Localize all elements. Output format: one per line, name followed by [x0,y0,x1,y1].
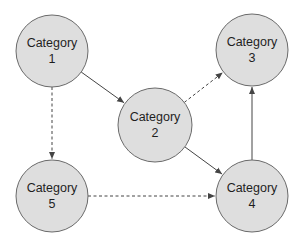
category-flow-diagram: Category 1 Category 2 Category 3 Categor… [0,0,307,244]
edge-2-to-4-arrow [185,147,222,174]
edge-1-to-2-arrow [81,72,124,103]
node-circle [216,160,288,232]
edge-2-to-3-arrow [184,73,222,103]
node-category-2: Category 2 [118,88,192,162]
node-circle [16,160,88,232]
node-label-line1: Category [27,181,78,195]
node-circle [16,15,88,87]
node-label-line1: Category [27,36,78,50]
node-label-line2: 4 [249,197,256,211]
node-label-line1: Category [227,35,278,49]
node-category-1: Category 1 [16,15,88,87]
node-label-line2: 2 [152,126,159,140]
node-label-line2: 5 [49,197,56,211]
node-category-3: Category 3 [216,14,288,86]
node-label-line1: Category [227,181,278,195]
node-label-line2: 3 [249,51,256,65]
node-category-5: Category 5 [16,160,88,232]
node-label-line2: 1 [49,52,56,66]
node-circle [216,14,288,86]
node-circle [118,88,192,162]
node-category-4: Category 4 [216,160,288,232]
node-label-line1: Category [130,110,181,124]
